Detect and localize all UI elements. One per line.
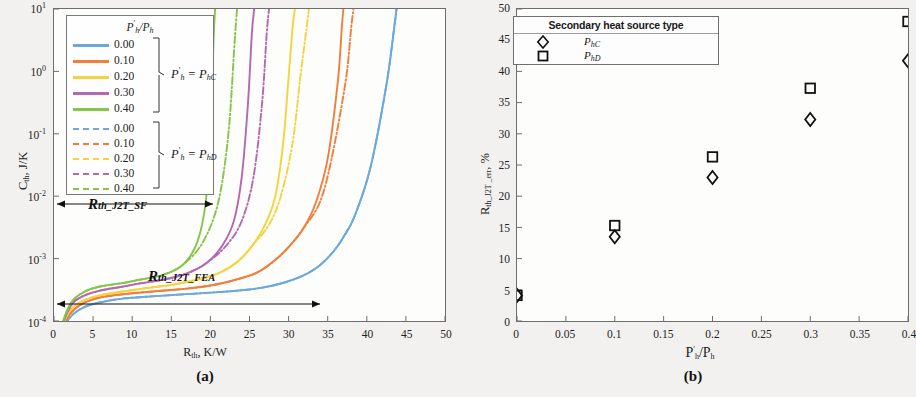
legend-a-brace-solid: [151, 36, 167, 114]
plot-a-x-tick: 25: [244, 328, 256, 340]
panel-a: 10110010-110-210-310-4 05101520253035404…: [0, 0, 460, 397]
panel-b-caption: (b): [684, 368, 702, 385]
plot-b-x-tick: 0.15: [653, 328, 673, 340]
plot-b-x-axis-label: P′h/Ph: [685, 345, 714, 361]
plot-b-y-tick: 15: [474, 222, 510, 234]
legend-line-swatch: [73, 60, 109, 63]
panel-b: 05101520253035404550 00.050.10.150.20.25…: [460, 0, 914, 397]
plot-a-x-tick: 20: [204, 328, 216, 340]
plot-a-x-axis-label: Rth, K/W: [183, 345, 227, 360]
data-point-square: [806, 83, 816, 93]
plot-a-y-tick: 101: [8, 1, 46, 15]
data-point-square: [903, 17, 908, 27]
data-point-diamond: [903, 54, 908, 67]
panel-a-caption: (a): [196, 368, 214, 385]
plot-a-x-tick: 40: [362, 328, 374, 340]
legend-dash-swatch: [73, 143, 109, 145]
legend-a-title: P′h/Ph: [67, 19, 213, 35]
legend-dash-swatch: [73, 188, 109, 190]
legend-line-swatch: [73, 92, 109, 95]
plot-b-y-tick: 50: [474, 2, 510, 14]
legend-a-group-label-dash: P′h = PhD: [171, 146, 217, 162]
plot-b-y-tick: 35: [474, 96, 510, 108]
plot-b-x-tick: 0.05: [555, 328, 575, 340]
plot-a-y-tick: 10-1: [8, 127, 46, 141]
plot-b-y-tick: 5: [474, 285, 510, 297]
data-point-square: [708, 152, 718, 162]
plot-a-x-tick: 30: [283, 328, 295, 340]
legend-b-divider: [514, 33, 718, 34]
legend-a-value: 0.10: [114, 54, 134, 66]
plot-a-x-tick: 45: [401, 328, 413, 340]
data-point-diamond: [610, 230, 620, 243]
legend-b-title: Secondary heat source type: [514, 19, 718, 31]
legend-dash-swatch: [73, 158, 109, 160]
plot-b-x-tick: 0.1: [607, 328, 621, 340]
plot-b-y-tick: 0: [474, 316, 510, 328]
legend-a-group-label-solid: P′h = PhC: [171, 66, 216, 82]
plot-a-y-tick: 10-4: [8, 315, 46, 329]
legend-dash-swatch: [73, 173, 109, 175]
legend-b-label-phc: PhC: [584, 35, 600, 49]
legend-a-value: 0.30: [114, 86, 134, 98]
plot-b-x-tick: 0.35: [850, 328, 870, 340]
data-point-diamond: [805, 113, 815, 126]
plot-b-legend: Secondary heat source type PhC PhD: [513, 16, 719, 65]
legend-a-value: 0.10: [114, 137, 134, 149]
annotation-rth-j2t-sf: Rth_J2T_SF: [88, 196, 147, 213]
square-marker-icon: [536, 49, 550, 63]
plot-a-y-tick: 10-2: [8, 189, 46, 203]
plot-a-y-tick: 100: [8, 64, 46, 78]
plot-b-x-tick: 0.2: [705, 328, 719, 340]
legend-a-value: 0.40: [114, 102, 134, 114]
plot-a-x-tick: 10: [126, 328, 138, 340]
legend-line-swatch: [73, 44, 109, 47]
legend-a-value: 0.00: [114, 38, 134, 50]
plot-b-y-tick: 30: [474, 128, 510, 140]
legend-a-brace-dash: [151, 120, 167, 190]
legend-a-value: 0.20: [114, 70, 134, 82]
legend-b-label-phd: PhD: [584, 49, 601, 63]
plot-a-legend: P′h/Ph 0.000.100.200.300.400.000.100.200…: [66, 15, 214, 195]
plot-b-x-tick: 0.25: [752, 328, 772, 340]
legend-a-value: 0.30: [114, 167, 134, 179]
legend-a-value: 0.40: [114, 182, 134, 194]
diamond-marker-icon: [536, 35, 550, 49]
annotation-rth-j2t-fea: Rth_J2T_FEA: [148, 268, 215, 285]
plot-b-x-tick: 0: [513, 328, 519, 340]
legend-line-swatch: [73, 108, 109, 111]
plot-a-y-tick: 10-3: [8, 252, 46, 266]
plot-a-x-tick: 5: [89, 328, 95, 340]
plot-b-y-tick: 10: [474, 253, 510, 265]
plot-a-x-tick: 0: [50, 328, 56, 340]
plot-a-x-tick: 35: [322, 328, 334, 340]
plot-b-y-tick: 40: [474, 65, 510, 77]
plot-a-x-tick: 15: [165, 328, 177, 340]
plot-b-x-tick: 0.3: [804, 328, 818, 340]
legend-dash-swatch: [73, 128, 109, 130]
plot-b-y-tick: 45: [474, 33, 510, 45]
plot-b-x-tick: 0.4: [902, 328, 916, 340]
data-point-diamond: [707, 171, 717, 184]
plot-a-y-axis-label: Cth, J/K: [16, 152, 31, 190]
legend-a-value: 0.00: [114, 122, 134, 134]
plot-a-x-tick: 50: [440, 328, 452, 340]
plot-b-y-axis-label: Rth_J2T _err, %: [478, 153, 493, 215]
legend-a-value: 0.20: [114, 152, 134, 164]
legend-line-swatch: [73, 76, 109, 79]
